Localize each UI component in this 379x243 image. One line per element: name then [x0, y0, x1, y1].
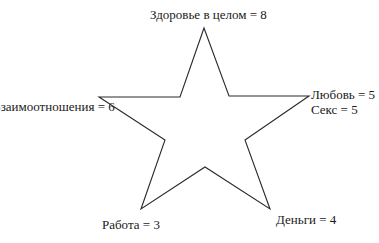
label-health: Здоровье в целом = 8 — [150, 8, 267, 22]
label-work: Работа = 3 — [102, 218, 160, 232]
label-relationships: Взаимоотношения = 6 — [0, 100, 115, 114]
label-sex: Секс = 5 — [311, 103, 358, 117]
label-love: Любовь = 5 — [311, 88, 375, 102]
label-money: Деньги = 4 — [276, 213, 336, 227]
star-shape — [99, 28, 309, 209]
star-diagram — [0, 0, 379, 243]
